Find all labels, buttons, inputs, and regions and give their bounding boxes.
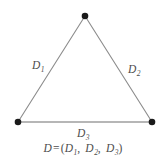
formula-close-paren: ): [118, 142, 122, 154]
vertex-bottom-left: [15, 119, 22, 126]
edge-label-d3-subscript: 3: [86, 133, 90, 142]
edge-right-d2: [85, 16, 152, 122]
vertex-apex: [82, 13, 89, 20]
formula-term-1-subscript: 1: [74, 148, 78, 157]
edge-label-d3: D3: [77, 128, 89, 140]
vertex-bottom-right: [149, 119, 156, 126]
edge-label-d3-base: D: [77, 127, 86, 139]
formula-term-1-base: D: [65, 142, 74, 154]
formula-lhs: D: [44, 142, 53, 154]
edge-label-d2: D2: [128, 64, 140, 76]
formula-separator-2: ,: [98, 142, 103, 154]
edge-label-d1: D1: [32, 60, 44, 72]
edge-left-d1: [18, 16, 85, 122]
formula-term-2-subscript: 2: [94, 148, 98, 157]
edge-label-d2-base: D: [128, 63, 137, 75]
edge-label-d2-subscript: 2: [137, 69, 141, 78]
formula-term-3-base: D: [106, 142, 115, 154]
formula-term-2-base: D: [85, 142, 94, 154]
edge-label-d1-base: D: [32, 59, 41, 71]
triangle-distance-figure: D1 D2 D3 D=(D1, D2, D3): [0, 0, 166, 166]
edge-label-d1-subscript: 1: [41, 65, 45, 74]
formula-equals: =: [52, 142, 61, 154]
distance-vector-formula: D=(D1, D2, D3): [0, 143, 166, 155]
formula-term-3-subscript: 3: [115, 148, 119, 157]
